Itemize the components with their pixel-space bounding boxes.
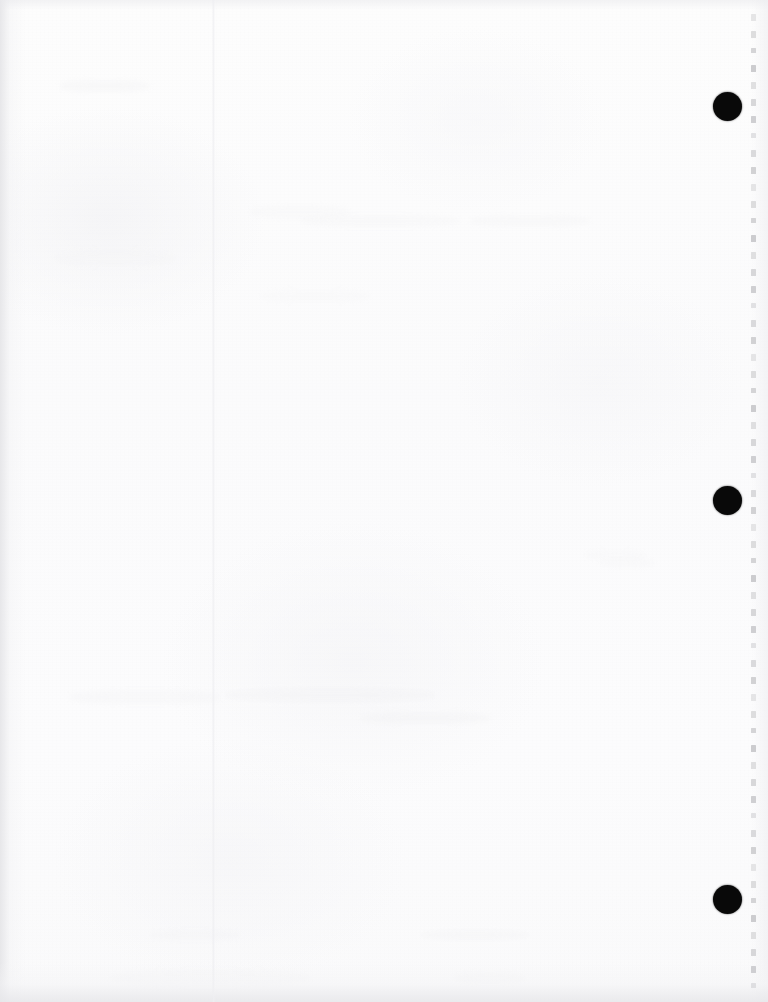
hole-punch-top [713,92,742,121]
perforation-tick [751,864,756,871]
perforation-tick [751,337,756,344]
perforation-tick [751,133,756,138]
perforation-tick [751,813,756,818]
perforation-tick [751,796,756,803]
perforation-tick [751,320,756,327]
perforation-tick [751,575,756,582]
perforation-tick [751,728,756,733]
perforation-tick [751,354,756,361]
perforation-tick [751,65,756,72]
perforation-tick [751,932,756,939]
perforation-tick [751,456,756,463]
perforation-tick [751,983,756,988]
perforation-tick [751,14,756,21]
perforation-tick [751,643,756,648]
perforation-tick [751,524,756,531]
perforation-tick [751,609,756,616]
perforation-tick [751,762,756,769]
perforation-tick [751,847,756,854]
hole-punch-bottom [713,885,742,914]
perforation-tick [751,745,756,752]
perforation-tick [751,949,756,956]
perforation-tick [751,507,756,514]
hole-punch-middle [713,486,742,515]
perforation-tick [751,660,756,667]
paper-surface [0,0,768,1002]
perforation-tick [751,116,756,123]
perforation-tick [751,830,756,837]
perforation-tick [751,167,756,174]
perforation-tick [751,439,756,446]
perforation-tick [751,626,756,633]
perforation-tick [751,677,756,684]
scanned-page [0,0,768,1002]
perforation-tick [751,48,756,53]
perforation-tick [751,269,756,276]
perforation-tick [751,82,756,89]
perforation-tick [751,201,756,208]
perforation-tick [751,898,756,903]
perforation-tick-column [750,0,760,1002]
perforation-tick [751,915,756,922]
perforation-tick [751,303,756,308]
perforation-tick [751,371,756,378]
perforation-tick [751,881,756,888]
perforation-tick [751,235,756,242]
perforation-tick [751,286,756,293]
perforation-tick [751,558,756,563]
perforation-tick [751,252,756,259]
perforation-tick [751,422,756,429]
perforation-tick [751,779,756,786]
perforation-tick [751,694,756,701]
perforation-tick [751,99,756,106]
perforation-tick [751,218,756,223]
perforation-tick [751,150,756,157]
perforation-tick [751,592,756,599]
perforation-tick [751,405,756,412]
perforation-tick [751,31,756,38]
perforation-tick [751,541,756,548]
perforation-tick [751,388,756,393]
perforation-tick [751,711,756,718]
perforation-tick [751,490,756,497]
perforation-tick [751,473,756,478]
perforation-tick [751,966,756,973]
perforation-tick [751,184,756,191]
